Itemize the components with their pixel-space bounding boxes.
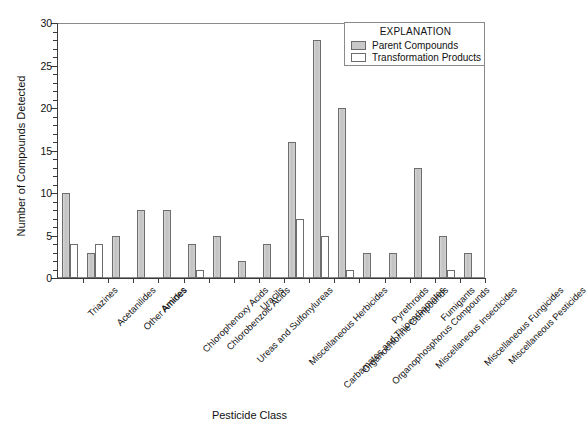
x-category-label: Triazines <box>86 285 120 319</box>
legend-title: EXPLANATION <box>345 26 486 37</box>
x-axis-title: Pesticide Class <box>0 409 499 421</box>
legend-swatch-parent-icon <box>351 41 366 50</box>
x-category-label: Amines <box>159 285 188 314</box>
legend-label-transformation: Transformation Products <box>372 52 481 63</box>
legend-label-parent: Parent Compounds <box>372 40 458 51</box>
legend-box: EXPLANATION Parent Compounds Transformat… <box>344 22 485 66</box>
legend-swatch-transformation-icon <box>351 53 366 62</box>
